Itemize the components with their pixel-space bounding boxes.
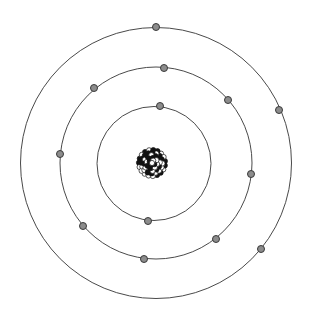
electron — [141, 256, 148, 263]
electrons — [57, 24, 283, 263]
electron — [248, 171, 255, 178]
electron — [225, 97, 232, 104]
electron — [145, 218, 152, 225]
electron — [258, 246, 265, 253]
electron — [161, 65, 168, 72]
electron — [276, 107, 283, 114]
electron — [91, 85, 98, 92]
electron — [153, 24, 160, 31]
electron — [213, 236, 220, 243]
electron — [57, 151, 64, 158]
nucleus — [136, 148, 167, 179]
electron — [80, 223, 87, 230]
electron — [157, 103, 164, 110]
atom-diagram — [0, 0, 309, 319]
proton — [149, 160, 154, 165]
